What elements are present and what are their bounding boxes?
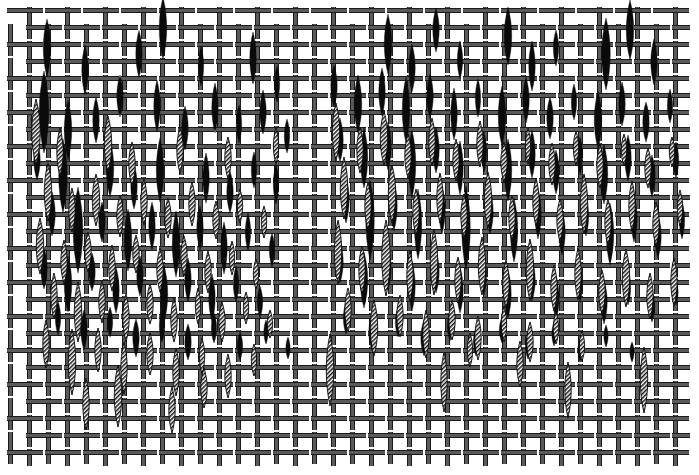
figure-canvas [0,0,699,475]
weave-lattice-background [0,0,699,475]
